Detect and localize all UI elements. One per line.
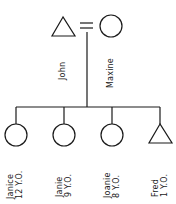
father-name: John	[58, 62, 67, 80]
child-4-label: Fred 1 Y.O.	[151, 174, 169, 197]
child-4-age: 1 Y.O.	[160, 174, 169, 197]
father-label: John	[58, 62, 67, 80]
child-3-age: 8 Y.O.	[112, 172, 121, 198]
child-4-triangle-icon	[149, 124, 172, 143]
child-1-name: Janice	[6, 171, 15, 199]
child-3-circle-icon	[101, 124, 123, 146]
child-4-name: Fred	[151, 174, 160, 197]
child-2-name: Janie	[55, 174, 64, 197]
mother-label: Maxine	[106, 58, 115, 88]
child-1-age: 12 Y.O.	[15, 171, 24, 199]
father-triangle-icon	[52, 17, 75, 36]
child-1-label: Janice 12 Y.O.	[6, 171, 24, 199]
child-2-age: 9 Y.O.	[64, 174, 73, 197]
mother-name: Maxine	[106, 58, 115, 88]
child-3-label: Joanie 8 Y.O.	[103, 172, 121, 198]
child-3-name: Joanie	[103, 172, 112, 198]
child-2-circle-icon	[53, 124, 75, 146]
child-1-circle-icon	[5, 124, 27, 146]
mother-circle-icon	[100, 15, 122, 37]
genogram-diagram	[0, 0, 176, 204]
child-2-label: Janie 9 Y.O.	[55, 174, 73, 197]
